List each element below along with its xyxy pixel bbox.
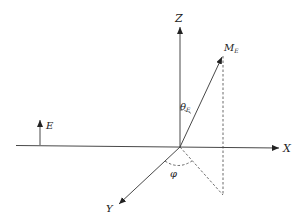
e-label: E (45, 120, 54, 131)
y-axis-label: Y (106, 203, 114, 214)
x-axis-label: X (282, 142, 292, 155)
x-axis (16, 146, 279, 149)
z-axis-label: Z (174, 12, 183, 25)
phi-arc (165, 161, 192, 166)
m-e-label: ME (223, 42, 239, 54)
coordinate-diagram: Z X Y ME E θE φ (0, 0, 298, 221)
m-e-vector (180, 57, 222, 147)
diagram-svg: Z X Y ME E θE φ (0, 0, 298, 221)
xy-projection-line (180, 147, 223, 195)
theta-e-label: θE (180, 101, 191, 113)
phi-label: φ (170, 168, 177, 179)
